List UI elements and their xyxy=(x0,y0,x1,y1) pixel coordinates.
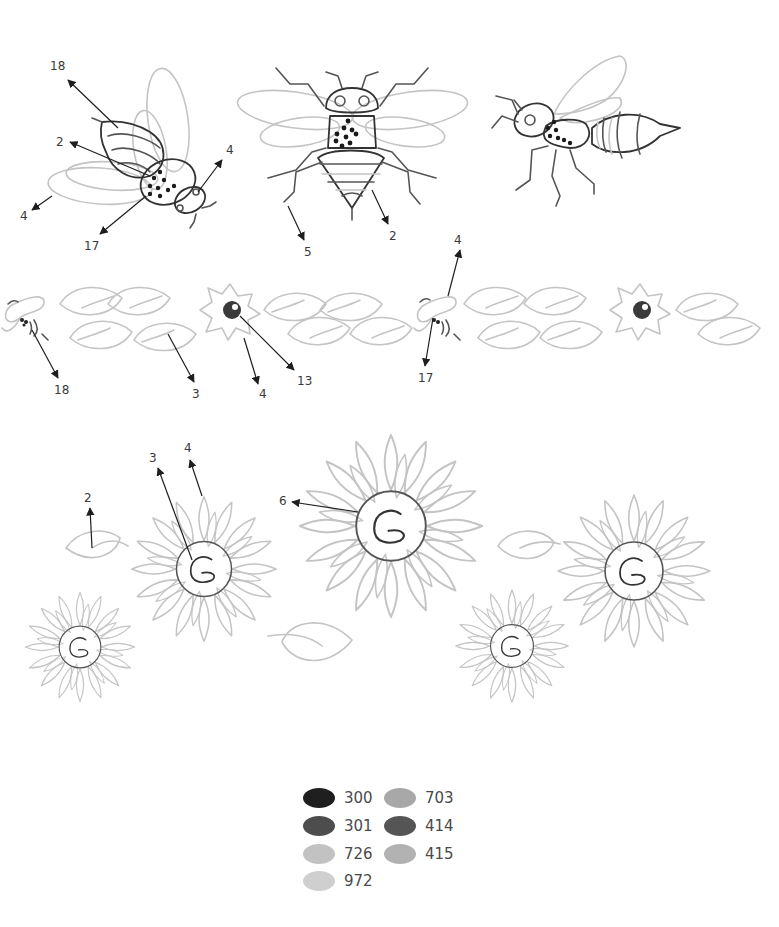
callout-17: 17 xyxy=(418,371,433,385)
border-callout-arrows xyxy=(32,250,460,384)
bee-callout-arrows xyxy=(32,80,388,240)
callout-18: 18 xyxy=(50,59,65,73)
border-row xyxy=(2,284,760,351)
thread-code: 726 xyxy=(344,845,373,863)
small-bee-right xyxy=(414,297,460,340)
callout-18: 18 xyxy=(54,383,69,397)
leaf xyxy=(268,623,352,661)
callout-2: 2 xyxy=(56,135,64,149)
wasp-side-right xyxy=(492,56,680,206)
sunflower-large-center xyxy=(300,435,482,617)
leaf xyxy=(66,531,128,557)
callout-4: 4 xyxy=(259,387,267,401)
small-flower-left xyxy=(200,284,260,340)
color-swatch-703 xyxy=(384,788,416,808)
sunflower-medium-right xyxy=(558,495,710,647)
legend-item: 301 xyxy=(303,814,373,838)
thread-code: 300 xyxy=(344,789,373,807)
callout-13: 13 xyxy=(297,374,312,388)
callout-2: 2 xyxy=(389,229,397,243)
small-flower-right xyxy=(610,284,670,340)
color-swatch-414 xyxy=(384,816,416,836)
border-callout-labels: 18 3 4 13 4 17 xyxy=(54,233,462,401)
callout-2: 2 xyxy=(84,491,92,505)
thread-code: 414 xyxy=(425,817,454,835)
legend-item: 726 xyxy=(303,842,373,866)
thread-code: 972 xyxy=(344,872,373,890)
legend-item: 414 xyxy=(384,814,454,838)
thread-code: 301 xyxy=(344,817,373,835)
callout-4: 4 xyxy=(184,441,192,455)
sunflower-small-left xyxy=(25,592,134,701)
sunflower-callout-labels: 2 3 4 6 xyxy=(84,441,287,508)
color-swatch-300 xyxy=(303,788,335,808)
thread-code: 703 xyxy=(425,789,454,807)
legend-item: 972 xyxy=(303,869,373,893)
color-swatch-301 xyxy=(303,816,335,836)
callout-4: 4 xyxy=(454,233,462,247)
color-swatch-415 xyxy=(384,844,416,864)
thread-code: 415 xyxy=(425,845,454,863)
bee-side-left xyxy=(47,66,216,228)
sunflower-section xyxy=(25,435,710,702)
callout-5: 5 xyxy=(304,245,312,259)
legend-item: 703 xyxy=(384,786,454,810)
sunflower-medium-left xyxy=(132,497,276,641)
small-bee-left xyxy=(2,297,48,340)
bee-top-center xyxy=(235,68,470,220)
callout-3: 3 xyxy=(192,387,200,401)
legend-item: 415 xyxy=(384,842,454,866)
callout-4: 4 xyxy=(226,143,234,157)
sunflower-small-right xyxy=(456,590,568,702)
callout-6: 6 xyxy=(279,494,287,508)
callout-17: 17 xyxy=(84,239,99,253)
callout-3: 3 xyxy=(149,451,157,465)
color-swatch-726 xyxy=(303,844,335,864)
leaf xyxy=(498,531,560,558)
legend-item: 300 xyxy=(303,786,373,810)
color-swatch-972 xyxy=(303,871,335,891)
callout-4: 4 xyxy=(20,209,28,223)
